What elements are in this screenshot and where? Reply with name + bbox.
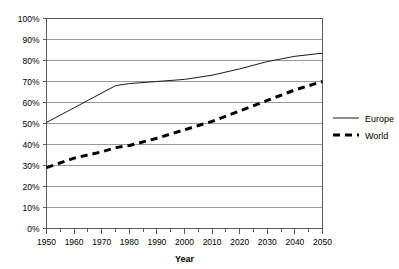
legend-label-world: World xyxy=(365,131,388,141)
x-axis-label-2010: 2010 xyxy=(203,237,222,247)
x-axis-label-2020: 2020 xyxy=(230,237,249,247)
y-axis-label-60: 60% xyxy=(22,98,39,108)
y-axis-label-50: 50% xyxy=(22,119,39,129)
x-axis-label-1970: 1970 xyxy=(92,237,111,247)
legend-label-europe: Europe xyxy=(365,114,394,124)
x-axis-label-1980: 1980 xyxy=(120,237,139,247)
y-axis-label-20: 20% xyxy=(22,182,39,192)
y-axis-label-30: 30% xyxy=(22,161,39,171)
y-axis-label-90: 90% xyxy=(22,35,39,45)
series-line-world xyxy=(47,82,323,168)
x-axis-label-2000: 2000 xyxy=(175,237,194,247)
line-chart: 0%10%20%30%40%50%60%70%80%90%100%1950196… xyxy=(0,0,399,269)
x-axis-label-1960: 1960 xyxy=(65,237,84,247)
x-axis-label-2030: 2030 xyxy=(258,237,277,247)
y-axis-label-40: 40% xyxy=(22,140,39,150)
y-axis-label-80: 80% xyxy=(22,56,39,66)
chart-container: 0%10%20%30%40%50%60%70%80%90%100%1950196… xyxy=(0,0,399,269)
series-line-europe xyxy=(47,53,323,122)
x-axis-label-1990: 1990 xyxy=(147,237,166,247)
y-axis-label-100: 100% xyxy=(18,14,40,24)
y-axis-label-0: 0% xyxy=(27,224,40,234)
x-axis-label-2040: 2040 xyxy=(285,237,304,247)
x-axis-label-2050: 2050 xyxy=(313,237,332,247)
y-axis-label-70: 70% xyxy=(22,77,39,87)
y-axis-label-10: 10% xyxy=(22,203,39,213)
x-axis-title: Year xyxy=(175,254,195,264)
x-axis-label-1950: 1950 xyxy=(37,237,56,247)
